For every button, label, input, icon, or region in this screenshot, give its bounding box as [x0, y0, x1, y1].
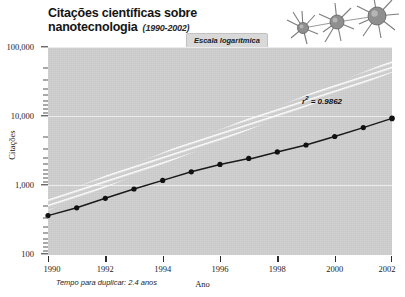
y-axis-title: Citações	[7, 115, 17, 175]
x-tick-label-1994: 1994	[154, 264, 171, 274]
r2-value: = 0.9862	[311, 97, 342, 106]
y-tick-minor	[43, 109, 48, 110]
y-tick-minor	[43, 169, 48, 170]
y-tick-100	[41, 253, 48, 254]
x-tick-1996	[220, 256, 221, 262]
y-tick-minor	[43, 174, 48, 175]
y-tick-minor	[43, 164, 48, 165]
y-tick-100000	[41, 46, 48, 47]
y-tick-minor	[43, 178, 48, 179]
x-tick-1998	[277, 256, 278, 262]
y-tick-label-1000: 1,000	[15, 180, 34, 190]
title-year-range: (1990-2002)	[143, 21, 190, 35]
y-tick-minor	[43, 79, 48, 80]
x-tick-label-1992: 1992	[97, 264, 114, 274]
x-tick-2000	[335, 256, 336, 262]
y-tick-label-100000: 100,000	[6, 42, 34, 52]
x-tick-label-1996: 1996	[212, 264, 229, 274]
y-tick-minor	[43, 243, 48, 244]
x-tick-1992	[105, 256, 106, 262]
y-tick-minor	[43, 100, 48, 101]
y-tick-minor	[43, 226, 48, 227]
x-tick-1990	[48, 256, 49, 262]
y-tick-1000	[41, 184, 48, 185]
x-tick-2002	[391, 256, 392, 262]
x-tick-label-2000: 2000	[326, 264, 343, 274]
y-tick-minor	[43, 136, 48, 137]
y-tick-minor	[43, 247, 48, 248]
y-tick-minor	[43, 217, 48, 218]
y-tick-minor	[43, 250, 48, 251]
title-second-line: nanotecnologia	[48, 20, 138, 34]
plot-area	[48, 47, 392, 255]
y-tick-minor	[43, 181, 48, 182]
page-title: Citações científicas sobre	[48, 6, 258, 20]
y-tick-minor	[43, 105, 48, 106]
y-tick-minor	[43, 67, 48, 68]
y-tick-label-100: 100	[21, 249, 34, 259]
x-tick-label-1998: 1998	[269, 264, 286, 274]
y-tick-minor	[43, 233, 48, 234]
y-tick-minor	[43, 112, 48, 113]
r-squared-annotation: r2 = 0.9862	[302, 95, 342, 106]
doubling-time-note: Tempo para duplicar: 2.4 anos	[56, 278, 157, 287]
x-tick-label-1990: 1990	[44, 264, 61, 274]
nanoparticle-star-icon	[285, 0, 405, 46]
x-tick-1994	[163, 256, 164, 262]
y-tick-minor	[43, 205, 48, 206]
y-tick-minor	[43, 88, 48, 89]
r2-exponent: 2	[305, 95, 308, 101]
x-tick-label-2002: 2002	[379, 264, 396, 274]
y-tick-minor	[43, 238, 48, 239]
series-layer	[48, 47, 392, 255]
y-tick-10000	[41, 115, 48, 116]
y-tick-minor	[43, 148, 48, 149]
chart-page: Citações científicas sobre nanotecnologi…	[0, 0, 405, 297]
y-tick-minor	[43, 157, 48, 158]
chart-title-block: Citações científicas sobre nanotecnologi…	[48, 6, 258, 35]
y-tick-minor	[43, 95, 48, 96]
